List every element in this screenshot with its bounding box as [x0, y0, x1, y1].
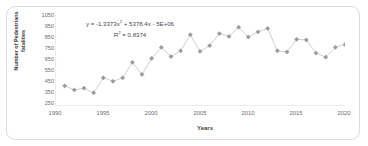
data-point-marker: [256, 30, 260, 34]
data-point-marker: [111, 79, 115, 83]
trendline-equation: y = -1.3373x2 + 5378.4x - 5E+06: [66, 17, 194, 28]
data-point-marker: [63, 84, 67, 88]
x-axis-title: Years: [55, 125, 355, 131]
equation-prefix: y = -1.3373x: [86, 20, 120, 27]
data-point-marker: [72, 88, 76, 92]
y-tick-label: 950: [28, 23, 54, 29]
r-squared-suffix: = 0.8374: [121, 31, 147, 38]
trendline-annotation: y = -1.3373x2 + 5378.4x - 5E+06 R2 = 0.8…: [66, 17, 194, 39]
data-point-marker: [266, 26, 270, 30]
y-axis-title-line1: Number of Pedestrians: [13, 12, 19, 71]
x-tick-label: 2020: [329, 110, 359, 116]
data-point-marker: [343, 42, 345, 46]
x-tick-label: 2010: [233, 110, 263, 116]
y-tick-label: 250: [28, 100, 54, 106]
y-tick-label: 650: [28, 56, 54, 62]
y-axis-title: Number of Pedestriansfatalities: [13, 0, 27, 89]
equation-suffix: + 5378.4x - 5E+06: [122, 20, 174, 27]
y-tick-label: 550: [28, 67, 54, 73]
r-squared-label: R2 = 0.8374: [66, 28, 194, 39]
data-point-marker: [198, 49, 202, 53]
data-point-marker: [82, 86, 86, 90]
x-tick-label: 2005: [185, 110, 215, 116]
chart-figure: Number of Pedestriansfatalities 1050 950…: [0, 0, 368, 146]
x-tick-label: 2000: [136, 110, 166, 116]
y-axis-ticks: 1050 950 850 750 650 550 450 350 250: [26, 0, 54, 146]
x-tick-label: 1995: [88, 110, 118, 116]
y-tick-label: 1050: [28, 12, 54, 18]
y-tick-label: 350: [28, 89, 54, 95]
data-point-marker: [179, 49, 183, 53]
x-tick-label: 1990: [40, 110, 70, 116]
y-tick-label: 450: [28, 78, 54, 84]
data-point-marker: [275, 49, 279, 53]
y-tick-label: 850: [28, 34, 54, 40]
x-tick-label: 2015: [281, 110, 311, 116]
y-tick-label: 750: [28, 45, 54, 51]
data-point-marker: [121, 76, 125, 80]
